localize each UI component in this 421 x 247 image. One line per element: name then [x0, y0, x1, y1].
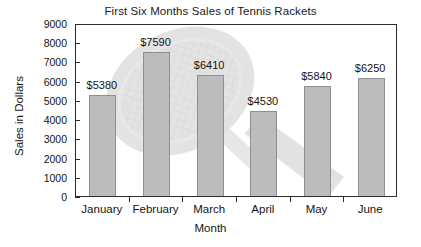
bar-value-label: $6410 [181, 59, 237, 71]
y-axis-tick-label: 8000 [23, 37, 67, 49]
y-axis-tick-label: 2000 [23, 153, 67, 165]
x-axis-tick-mark [236, 197, 237, 202]
plot-area [75, 24, 397, 197]
x-axis-tick-label: April [251, 203, 274, 215]
bar-value-label: $5380 [74, 79, 130, 91]
y-axis-tick-label: 4000 [23, 114, 67, 126]
y-axis-tick-label: 6000 [23, 76, 67, 88]
chart-title: First Six Months Sales of Tennis Rackets [0, 5, 421, 17]
y-axis-tick-mark [75, 197, 80, 198]
bar-value-label: $6250 [342, 62, 398, 74]
bars-layer [76, 25, 397, 197]
x-axis-tick-mark [290, 197, 291, 202]
x-axis-tick-mark [343, 197, 344, 202]
bar [250, 111, 277, 197]
bar-value-label: $5840 [289, 70, 345, 82]
x-axis-tick-label: May [306, 203, 328, 215]
x-axis-tick-label: February [132, 203, 178, 215]
bar [304, 86, 331, 197]
bar [89, 95, 116, 197]
x-axis-tick-mark [129, 197, 130, 202]
y-axis-tick-label: 9000 [23, 18, 67, 30]
x-axis-tick-label: June [358, 203, 383, 215]
x-axis-tick-label: January [81, 203, 122, 215]
bar-value-label: $4530 [235, 95, 291, 107]
x-axis-tick-label: March [193, 203, 225, 215]
y-axis-tick-label: 5000 [23, 95, 67, 107]
y-axis-tick-label: 1000 [23, 172, 67, 184]
bar-value-label: $7590 [128, 36, 184, 48]
bar [358, 78, 385, 197]
bar [197, 75, 224, 197]
bar [143, 52, 170, 197]
y-axis-tick-label: 7000 [23, 56, 67, 68]
x-axis-tick-mark [182, 197, 183, 202]
y-axis-tick-label: 3000 [23, 133, 67, 145]
x-axis-title: Month [0, 222, 421, 234]
y-axis-tick-label: 0 [23, 191, 67, 203]
bar-chart: First Six Months Sales of Tennis Rackets… [0, 0, 421, 247]
